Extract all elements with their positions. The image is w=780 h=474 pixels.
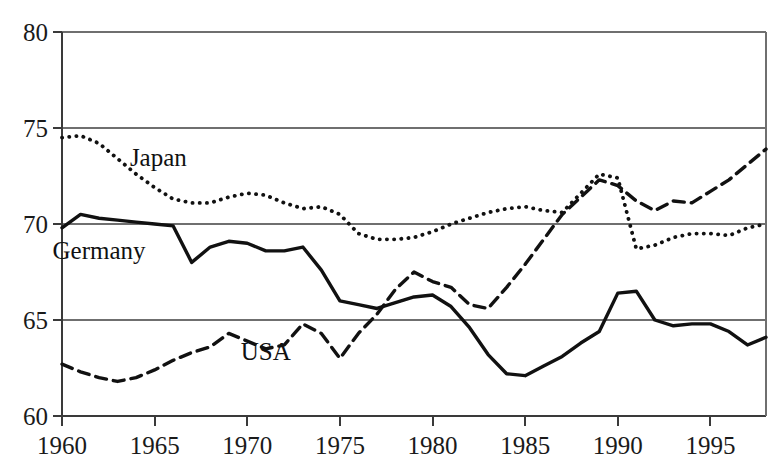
- series-label-germany: Germany: [53, 237, 147, 264]
- x-tick-label-1960: 1960: [37, 432, 87, 459]
- y-tick-labels-group: 6065707580: [23, 19, 48, 430]
- x-tick-label-1985: 1985: [500, 432, 550, 459]
- y-tick-label-80: 80: [23, 19, 48, 46]
- y-tick-label-60: 60: [23, 403, 48, 430]
- series-label-usa: USA: [241, 338, 291, 365]
- line-chart: 6065707580 19601965197019751980198519901…: [0, 0, 780, 474]
- chart-container: 6065707580 19601965197019751980198519901…: [0, 0, 780, 474]
- x-tick-label-1975: 1975: [315, 432, 365, 459]
- y-tick-label-65: 65: [23, 307, 48, 334]
- x-tick-label-1995: 1995: [685, 432, 735, 459]
- x-tick-labels-group: 19601965197019751980198519901995: [37, 432, 735, 459]
- series-label-japan: Japan: [130, 144, 187, 171]
- x-tick-label-1965: 1965: [130, 432, 180, 459]
- y-tick-label-75: 75: [23, 115, 48, 142]
- series-labels-group: JapanGermanyUSA: [53, 144, 291, 365]
- x-tick-label-1970: 1970: [222, 432, 272, 459]
- y-tick-label-70: 70: [23, 211, 48, 238]
- series-line-usa: [62, 149, 766, 381]
- x-tick-label-1980: 1980: [408, 432, 458, 459]
- series-group: [62, 136, 766, 382]
- tick-marks-group: [53, 32, 710, 426]
- plot-frame: [62, 32, 766, 424]
- series-line-germany: [62, 214, 766, 375]
- x-tick-label-1990: 1990: [593, 432, 643, 459]
